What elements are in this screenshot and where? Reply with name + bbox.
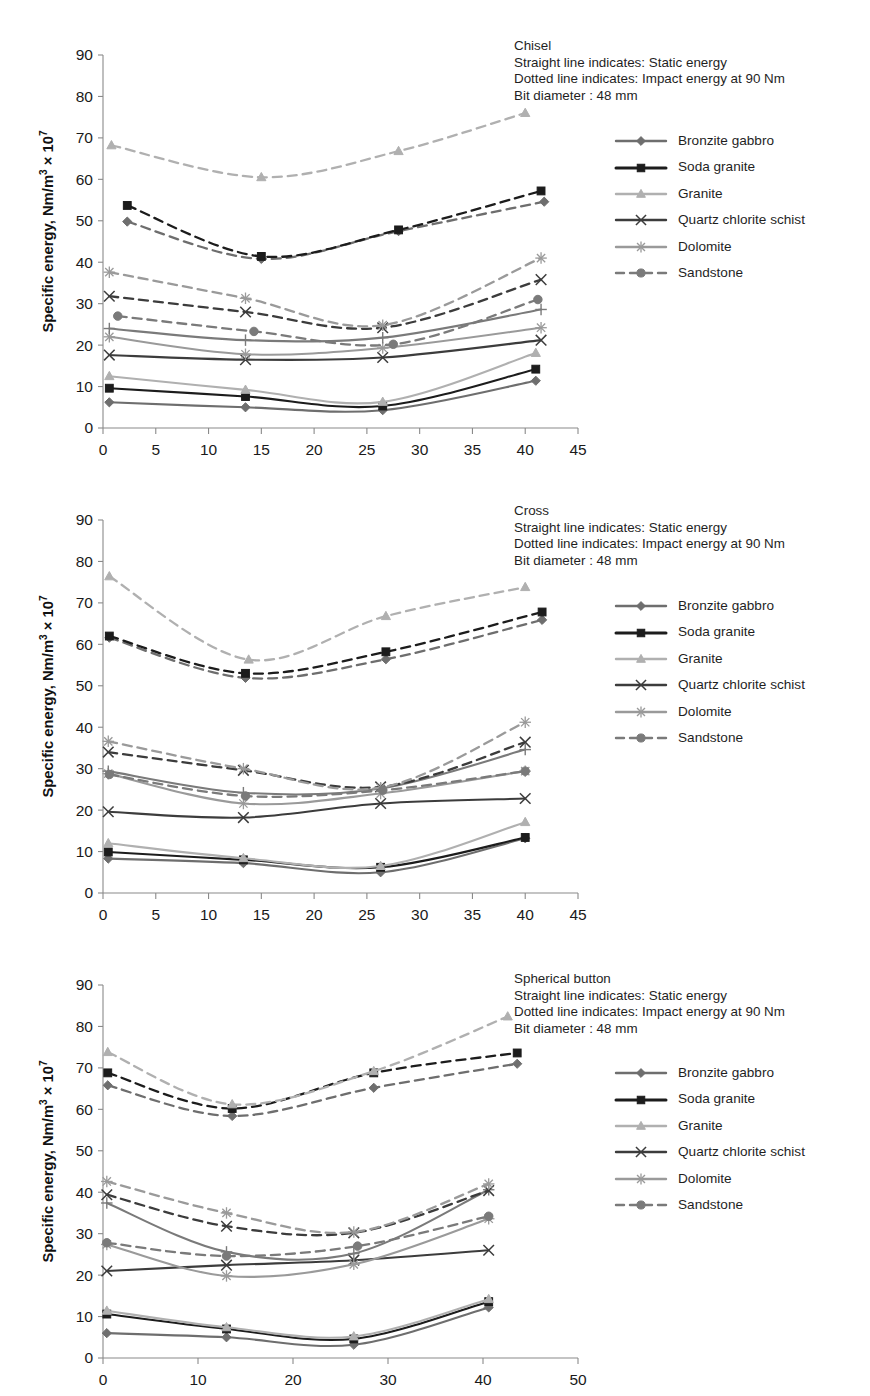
chart-legend: Bronzite gabbroSoda graniteGraniteQuartz… [614, 593, 805, 751]
legend-swatch-cross-icon [614, 213, 668, 227]
chart-annotation: CrossStraight line indicates: Static ene… [514, 503, 785, 569]
legend-item-dolomite: Dolomite [614, 234, 805, 260]
legend-item-soda-granite: Soda granite [614, 154, 805, 180]
legend-swatch-diamond-icon [614, 1066, 668, 1080]
legend-label: Quartz chlorite schist [678, 207, 805, 233]
legend-swatch-triangle-icon [614, 187, 668, 201]
x-tick-label: 5 [151, 441, 160, 458]
series-granite-impact [107, 108, 530, 181]
legend-label: Sandstone [678, 260, 743, 286]
annotation-line: Dotted line indicates: Impact energy at … [514, 1004, 785, 1021]
legend-label: Soda granite [678, 619, 755, 645]
legend-label: Dolomite [678, 234, 732, 260]
series-granite-static [102, 1294, 493, 1340]
chart-legend: Bronzite gabbroSoda graniteGraniteQuartz… [614, 128, 805, 286]
legend-item-granite: Granite [614, 1113, 805, 1139]
y-tick-label: 30 [76, 1225, 94, 1242]
series-granite-static [104, 817, 530, 869]
series-dolomite-impact [104, 252, 547, 331]
legend-label: Soda granite [678, 1086, 755, 1112]
legend-swatch-circle-icon [614, 266, 668, 280]
legend-swatch-cross-icon [614, 678, 668, 692]
series-dolomite-static [101, 1213, 494, 1282]
legend-item-soda-granite: Soda granite [614, 619, 805, 645]
annotation-bit-type: Spherical button [514, 971, 785, 988]
series-quartz-chlorite-schist-static [104, 335, 546, 365]
legend-swatch-square-icon [614, 161, 668, 175]
y-tick-label: 40 [76, 254, 94, 271]
x-tick-label: 50 [569, 1371, 587, 1388]
chart-panel-spherical-button: 010203040506070809001020304050Indexing a… [0, 930, 870, 1395]
x-tick-label: 10 [200, 441, 218, 458]
legend-label: Bronzite gabbro [678, 128, 774, 154]
legend-swatch-star-icon [614, 1172, 668, 1186]
x-tick-label: 20 [305, 906, 323, 923]
x-tick-label: 0 [99, 906, 108, 923]
legend-swatch-square-icon [614, 1093, 668, 1107]
legend-item-granite: Granite [614, 646, 805, 672]
x-tick-label: 40 [517, 906, 535, 923]
y-tick-label: 60 [76, 636, 94, 653]
chart-annotation: Spherical buttonStraight line indicates:… [514, 971, 785, 1037]
annotation-line: Bit diameter : 48 mm [514, 1021, 785, 1038]
annotation-line: Dotted line indicates: Impact energy at … [514, 71, 785, 88]
annotation-line: Straight line indicates: Static energy [514, 988, 785, 1005]
legend-label: Bronzite gabbro [678, 1060, 774, 1086]
y-axis-title: Specific energy, Nm/m3 × 107 [38, 45, 56, 418]
y-tick-label: 0 [84, 1349, 93, 1366]
y-tick-label: 80 [76, 88, 94, 105]
legend-item-sandstone: Sandstone [614, 260, 805, 286]
series-bronzite-gabbro-impact [123, 197, 549, 263]
x-tick-label: 40 [517, 441, 535, 458]
legend-swatch-triangle-icon [614, 1119, 668, 1133]
chart-legend: Bronzite gabbroSoda graniteGraniteQuartz… [614, 1060, 805, 1218]
x-tick-label: 30 [411, 441, 429, 458]
x-tick-label: 0 [99, 441, 108, 458]
y-axis-title: Specific energy, Nm/m3 × 107 [38, 510, 56, 883]
legend-label: Dolomite [678, 1166, 732, 1192]
legend-swatch-circle-icon [614, 1198, 668, 1212]
legend-item-soda-granite: Soda granite [614, 1086, 805, 1112]
x-tick-label: 25 [358, 906, 375, 923]
annotation-line: Bit diameter : 48 mm [514, 553, 785, 570]
legend-label: Quartz chlorite schist [678, 672, 805, 698]
y-tick-label: 60 [76, 171, 94, 188]
annotation-line: Dotted line indicates: Impact energy at … [514, 536, 785, 553]
x-tick-label: 35 [464, 441, 481, 458]
legend-label: Granite [678, 181, 723, 207]
x-tick-label: 20 [305, 441, 323, 458]
annotation-line: Bit diameter : 48 mm [514, 88, 785, 105]
legend-swatch-diamond-icon [614, 134, 668, 148]
x-tick-label: 30 [379, 1371, 397, 1388]
legend-item-sandstone: Sandstone [614, 725, 805, 751]
legend-swatch-diamond-icon [614, 599, 668, 613]
series-granite-impact [105, 572, 530, 664]
x-tick-label: 25 [358, 441, 375, 458]
legend-swatch-square-icon [614, 626, 668, 640]
y-tick-label: 0 [84, 419, 93, 436]
x-tick-label: 0 [99, 1371, 108, 1388]
y-axis-title: Specific energy, Nm/m3 × 107 [38, 975, 56, 1348]
series-soda-granite-static [105, 365, 539, 410]
y-tick-label: 30 [76, 760, 94, 777]
series-sandstone-static [103, 744, 531, 799]
y-tick-label: 90 [76, 511, 94, 528]
legend-swatch-star-icon [614, 705, 668, 719]
legend-swatch-triangle-icon [614, 652, 668, 666]
y-tick-label: 60 [76, 1101, 94, 1118]
legend-swatch-star-icon [614, 240, 668, 254]
legend-swatch-cross-icon [614, 1145, 668, 1159]
x-tick-label: 35 [464, 906, 481, 923]
y-tick-label: 90 [76, 46, 94, 63]
legend-label: Soda granite [678, 154, 755, 180]
y-tick-label: 80 [76, 1018, 94, 1035]
legend-item-dolomite: Dolomite [614, 1166, 805, 1192]
y-tick-label: 70 [76, 129, 94, 146]
x-tick-label: 15 [253, 906, 270, 923]
legend-item-quartz-chlorite-schist: Quartz chlorite schist [614, 207, 805, 233]
x-tick-label: 15 [253, 441, 270, 458]
x-tick-label: 10 [189, 1371, 207, 1388]
y-tick-label: 80 [76, 553, 94, 570]
legend-item-bronzite-gabbro: Bronzite gabbro [614, 593, 805, 619]
x-tick-label: 45 [569, 441, 586, 458]
